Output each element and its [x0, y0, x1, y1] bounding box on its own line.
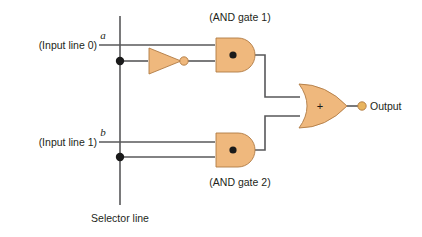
label-input-line-0: (Input line 0)	[39, 39, 97, 51]
and-gate-icon-1	[216, 38, 255, 72]
or-operator-symbol: +	[317, 100, 323, 112]
label-output: Output	[370, 100, 402, 112]
and-gate-icon-2	[216, 133, 255, 167]
label-selector-line: Selector line	[91, 212, 149, 224]
or-gate-icon: +	[299, 84, 347, 128]
wire-and-gate-1-to-or-gate	[255, 55, 300, 97]
and-operator-symbol-2	[229, 146, 236, 153]
not-gate-icon	[149, 48, 188, 74]
junction-dot-icon-selector-upper	[116, 57, 124, 65]
and-operator-symbol-1	[229, 51, 236, 58]
output-terminal-icon	[358, 102, 366, 110]
logic-circuit-diagram: + (Input line 0) a (Input line 1) b (AND…	[0, 0, 422, 237]
label-and-gate-2: (AND gate 2)	[209, 176, 270, 188]
label-signal-a: a	[100, 29, 106, 41]
label-signal-b: b	[100, 126, 106, 138]
wire-and-gate-2-to-or-gate	[255, 116, 300, 150]
label-and-gate-1: (AND gate 1)	[209, 11, 270, 23]
junction-dot-icon-selector-lower	[116, 153, 124, 161]
circuit-canvas: + (Input line 0) a (Input line 1) b (AND…	[0, 0, 422, 237]
label-input-line-1: (Input line 1)	[39, 136, 97, 148]
